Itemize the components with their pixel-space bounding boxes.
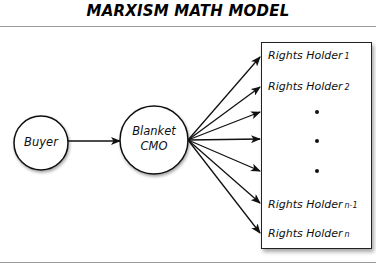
cmo-label-line2: CMO bbox=[120, 139, 188, 154]
arrow-to-rh-1 bbox=[188, 57, 260, 140]
cmo-label-line1: Blanket bbox=[120, 124, 188, 139]
rights-holder-1: Rights Holder1 bbox=[268, 49, 350, 62]
arrow-to-rh-n bbox=[188, 140, 260, 233]
rights-holder-2: Rights Holder2 bbox=[268, 80, 350, 93]
rights-holder-n-index: n bbox=[345, 230, 350, 239]
rights-holders-box: Rights Holder1 Rights Holder2 Rights Hol… bbox=[261, 42, 372, 249]
arrow-to-rh-n-minus-1 bbox=[188, 140, 260, 203]
arrow-to-rh-2 bbox=[188, 87, 260, 140]
arrow-to-ellipsis-2 bbox=[188, 139, 260, 140]
rights-holder-n-minus-1: Rights Holdern-1 bbox=[268, 198, 358, 211]
rights-holder-1-index: 1 bbox=[345, 52, 350, 61]
buyer-label: Buyer bbox=[14, 135, 68, 150]
rights-holder-n: Rights Holdern bbox=[268, 227, 350, 240]
arrow-to-ellipsis-3 bbox=[188, 140, 260, 171]
cmo-fan-arrows bbox=[188, 57, 260, 233]
ellipsis-dot-2 bbox=[315, 139, 319, 143]
rights-holder-n-minus-1-index: n-1 bbox=[345, 201, 358, 210]
buyer-label-text: Buyer bbox=[24, 135, 58, 149]
cmo-label: Blanket CMO bbox=[120, 124, 188, 154]
arrow-to-ellipsis-1 bbox=[188, 112, 260, 140]
rights-holder-2-index: 2 bbox=[345, 83, 350, 92]
ellipsis-dot-3 bbox=[315, 169, 319, 173]
ellipsis-dot-1 bbox=[315, 110, 319, 114]
